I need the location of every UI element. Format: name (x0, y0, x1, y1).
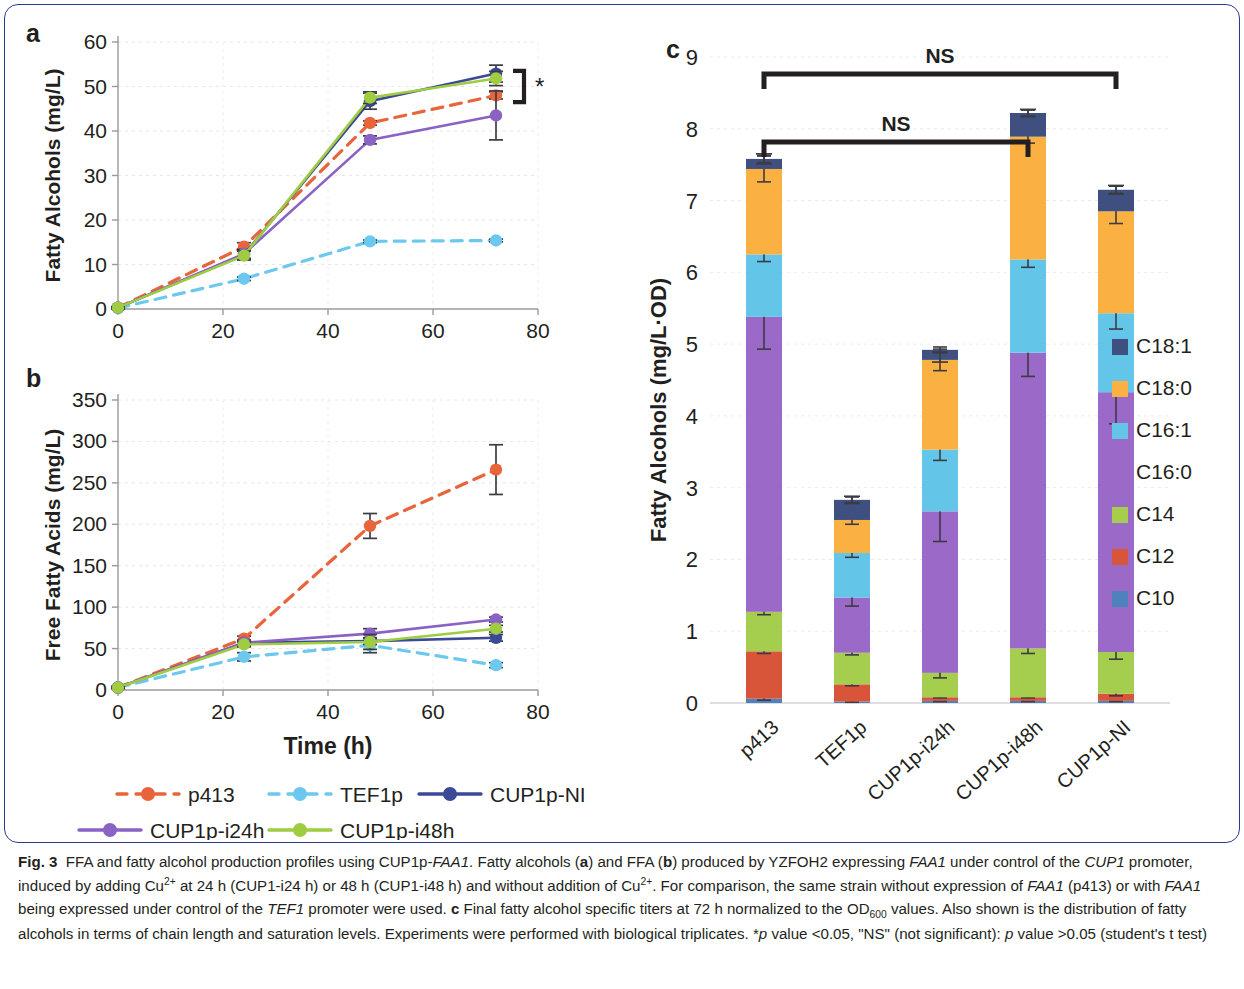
legend-label: C18:1 (1136, 334, 1192, 357)
legend-item-TEF1p: TEF1p (269, 783, 403, 806)
y-tick-label: 9 (686, 45, 698, 70)
legend-label: p413 (188, 783, 235, 806)
data-point-CUP1p-i48h (364, 636, 376, 648)
x-tick-label: 40 (316, 319, 339, 342)
x-tick-label: 40 (316, 700, 339, 723)
bar-segment-CUP1p-i48h-C16:0 (1010, 353, 1046, 649)
bar-segment-p413-C12 (746, 651, 782, 698)
legend-marker (293, 823, 307, 837)
category-label-CUP1p-NI: CUP1p-NI (1052, 716, 1134, 793)
y-tick-label: 0 (95, 297, 107, 320)
series-line-TEF1p (118, 240, 496, 308)
panel-letter-a: a (26, 19, 41, 47)
data-point-CUP1p-i48h (238, 249, 250, 261)
category-label-TEF1p: TEF1p (811, 716, 870, 773)
bar-group-CUP1p-NI (1098, 185, 1134, 703)
bar-segment-p413-C16:0 (746, 317, 782, 612)
y-tick-label: 0 (95, 678, 107, 701)
y-tick-label: 5 (686, 332, 698, 357)
panel-b: 050100150200250300350020406080Free Fatty… (41, 388, 550, 759)
y-tick-label: 3 (686, 476, 698, 501)
bar-segment-TEF1p-C14 (834, 653, 870, 685)
series-line-CUP1p-NI (118, 638, 496, 688)
x-tick-label: 60 (421, 700, 444, 723)
y-tick-label: 2 (686, 547, 698, 572)
series-line-CUP1p-i48h (118, 78, 496, 307)
y-tick-label: 7 (686, 189, 698, 214)
ns-bracket-2: NS (764, 112, 1028, 157)
y-tick-label: 150 (72, 554, 107, 577)
legend-label: C18:0 (1136, 376, 1192, 399)
legend-swatch (1112, 423, 1128, 439)
legend-label: CUP1p-i48h (340, 819, 454, 840)
y-tick-label: 1 (686, 619, 698, 644)
category-label-CUP1p-i24h: CUP1p-i24h (863, 716, 959, 805)
legend-marker (293, 787, 307, 801)
data-point-CUP1p-i48h (490, 622, 502, 634)
ns-bracket-line (764, 74, 1116, 89)
y-axis-title: Free Fatty Acids (mg/L) (41, 429, 64, 662)
panel-c: 0123456789Fatty Alcohols (mg/L·OD)p413TE… (650, 44, 1170, 805)
bar-group-TEF1p (834, 496, 870, 703)
data-point-CUP1p-i24h (490, 109, 502, 121)
panel-letter-b: b (26, 364, 41, 392)
data-point-TEF1p (238, 651, 250, 663)
bar-segment-p413-C16:1 (746, 254, 782, 316)
y-axis-title: Fatty Alcohols (mg/L·OD) (650, 278, 671, 542)
bar-segment-CUP1p-i48h-C16:1 (1010, 259, 1046, 352)
y-tick-label: 200 (72, 512, 107, 535)
data-point-TEF1p (490, 659, 502, 671)
legend-label: C12 (1136, 544, 1175, 567)
y-tick-label: 300 (72, 429, 107, 452)
legend-swatch (1112, 465, 1128, 481)
y-tick-label: 350 (72, 388, 107, 411)
panel-letter-c: c (666, 35, 680, 63)
data-point-CUP1p-i24h (364, 134, 376, 146)
ns-label: NS (881, 112, 910, 135)
x-axis-title: Time (h) (283, 733, 372, 759)
legend-label: C16:1 (1136, 418, 1192, 441)
legend-marker (443, 787, 457, 801)
data-point-p413 (364, 117, 376, 129)
data-point-CUP1p-i48h (112, 301, 124, 313)
data-point-TEF1p (490, 234, 502, 246)
y-tick-label: 100 (72, 595, 107, 618)
y-tick-label: 10 (84, 253, 107, 276)
ns-label: NS (925, 44, 954, 67)
bar-segment-CUP1p-NI-C18:0 (1098, 211, 1134, 313)
y-tick-label: 6 (686, 260, 698, 285)
legend-item-p413: p413 (117, 783, 235, 806)
x-tick-label: 80 (526, 319, 549, 342)
figure-caption: Fig. 3 FFA and fatty alcohol production … (18, 851, 1228, 945)
y-tick-label: 250 (72, 471, 107, 494)
bar-segment-CUP1p-i48h-C14 (1010, 648, 1046, 697)
legend-swatch (1112, 591, 1128, 607)
panels-a-b-svg: 0102030405060020406080Fatty Alcohols (mg… (0, 0, 650, 840)
y-tick-label: 8 (686, 117, 698, 142)
panel-a: 0102030405060020406080Fatty Alcohols (mg… (41, 30, 550, 342)
legend-swatch (1112, 507, 1128, 523)
legend-swatch (1112, 549, 1128, 565)
y-tick-label: 50 (84, 637, 107, 660)
y-tick-label: 50 (84, 75, 107, 98)
legend-swatch (1112, 381, 1128, 397)
bar-group-CUP1p-i24h (922, 347, 958, 703)
legend-item-CUP1p-NI: CUP1p-NI (419, 783, 586, 806)
data-point-p413 (490, 463, 502, 475)
x-tick-label: 20 (211, 319, 234, 342)
legend-label: CUP1p-NI (490, 783, 586, 806)
legend-marker (141, 787, 155, 801)
x-tick-label: 0 (112, 700, 124, 723)
y-tick-label: 40 (84, 119, 107, 142)
ns-bracket-line (764, 142, 1028, 157)
data-point-CUP1p-i48h (112, 681, 124, 693)
y-tick-label: 60 (84, 30, 107, 53)
figure-3: 0102030405060020406080Fatty Alcohols (mg… (0, 0, 1244, 989)
y-tick-label: 30 (84, 164, 107, 187)
data-point-CUP1p-i48h (364, 91, 376, 103)
legend-label: TEF1p (340, 783, 403, 806)
data-point-p413 (364, 520, 376, 532)
x-tick-label: 80 (526, 700, 549, 723)
significance-star: * (535, 73, 544, 100)
legend-item-CUP1p-i24h: CUP1p-i24h (79, 819, 264, 840)
